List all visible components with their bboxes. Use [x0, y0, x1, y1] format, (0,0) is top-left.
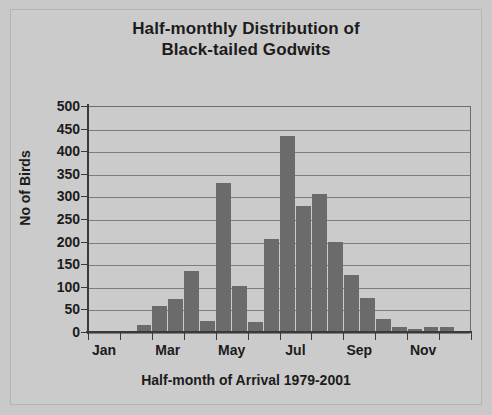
y-axis-tick-label: 50 — [10, 302, 80, 316]
y-axis-tick-mark — [81, 264, 88, 265]
bar — [312, 194, 327, 332]
bar — [184, 271, 199, 332]
x-axis-tick-mark — [248, 333, 249, 340]
bar — [232, 286, 247, 332]
bar — [296, 206, 311, 332]
y-axis-tick-mark — [81, 151, 88, 152]
bar — [360, 298, 375, 332]
y-axis-tick-label: 100 — [10, 280, 80, 294]
x-axis-tick-mark — [343, 333, 344, 340]
x-axis-tick-mark — [471, 333, 472, 340]
x-axis-tick-label: Jul — [285, 342, 305, 358]
x-axis-tick-mark — [184, 333, 185, 340]
y-axis-tick-label: 150 — [10, 257, 80, 271]
y-axis-tick-labels: 500450400350300250200150100500 — [8, 0, 80, 415]
bar — [344, 275, 359, 332]
y-axis-tick-label: 200 — [10, 235, 80, 249]
bar — [152, 306, 167, 332]
x-axis-tick-mark — [152, 333, 153, 340]
bar — [264, 239, 279, 332]
x-axis-tick-label: Nov — [410, 342, 436, 358]
chart-page: Half-monthly Distribution of Black-taile… — [0, 0, 492, 415]
y-axis-tick-label: 250 — [10, 212, 80, 226]
y-axis-tick-label: 500 — [10, 99, 80, 113]
y-axis-tick-label: 450 — [10, 122, 80, 136]
bar — [280, 136, 295, 332]
bar — [216, 183, 231, 332]
y-axis-tick-mark — [81, 242, 88, 243]
y-axis-tick-label: 400 — [10, 144, 80, 158]
x-axis-tick-mark — [216, 333, 217, 340]
x-axis-title: Half-month of Arrival 1979-2001 — [0, 372, 492, 388]
y-axis-tick-mark — [81, 174, 88, 175]
x-axis-tick-label: Mar — [155, 342, 180, 358]
y-axis-tick-label: 0 — [10, 325, 80, 339]
x-axis-tick-mark — [407, 333, 408, 340]
y-axis-tick-mark — [81, 332, 88, 333]
x-axis-tick-mark — [311, 333, 312, 340]
bars-layer — [88, 106, 471, 332]
bar — [328, 242, 343, 332]
y-axis-tick-label: 350 — [10, 167, 80, 181]
y-axis-tick-mark — [81, 129, 88, 130]
x-axis-tick-mark — [88, 333, 89, 340]
x-axis-tick-mark — [439, 333, 440, 340]
x-axis-tick-mark — [375, 333, 376, 340]
y-axis-tick-mark — [81, 287, 88, 288]
x-axis-tick-mark — [120, 333, 121, 340]
y-axis-tick-mark — [81, 196, 88, 197]
x-axis-tick-label: Jan — [92, 342, 116, 358]
y-axis-tick-mark — [81, 309, 88, 310]
y-axis-tick-mark — [81, 219, 88, 220]
y-axis-tick-label: 300 — [10, 189, 80, 203]
y-axis-tick-mark — [81, 106, 88, 107]
x-axis-tick-label: May — [218, 342, 245, 358]
x-axis-tick-mark — [280, 333, 281, 340]
bar — [168, 299, 183, 332]
x-axis-tick-label: Sep — [346, 342, 372, 358]
